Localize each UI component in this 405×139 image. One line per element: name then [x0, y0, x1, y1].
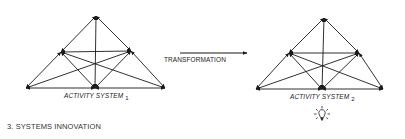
activity-system-2-network	[256, 18, 383, 89]
network-edge	[322, 18, 324, 89]
activity-system-2-subscript: 2	[351, 96, 354, 102]
network-edge	[324, 18, 359, 53]
transformation-label: TRANSFORMATION	[164, 56, 226, 63]
activity-system-1-network	[26, 16, 165, 88]
network-edge	[289, 53, 383, 89]
activity-system-2-label: ACTIVITY SYSTEM2	[290, 93, 355, 102]
network-edge	[96, 16, 131, 51]
lightbulb-icon	[314, 106, 330, 121]
activity-system-1-subscript: 1	[125, 95, 128, 101]
network-edge	[289, 18, 324, 53]
network-edge	[256, 53, 359, 89]
network-edge	[95, 51, 131, 88]
network-edge	[26, 52, 61, 88]
activity-system-1-label: ACTIVITY SYSTEM1	[64, 92, 129, 101]
activity-system-1-text: ACTIVITY SYSTEM	[64, 92, 123, 99]
activity-systems-diagram	[0, 0, 405, 139]
network-edge	[289, 53, 322, 89]
network-edge	[359, 53, 383, 89]
activity-system-2-text: ACTIVITY SYSTEM	[290, 93, 349, 100]
network-edge	[61, 51, 131, 52]
network-edge	[26, 51, 131, 88]
network-edge	[95, 16, 96, 88]
figure-caption: 3. SYSTEMS INNOVATION	[7, 122, 101, 131]
network-edge	[61, 16, 96, 52]
network-edge	[322, 53, 359, 89]
